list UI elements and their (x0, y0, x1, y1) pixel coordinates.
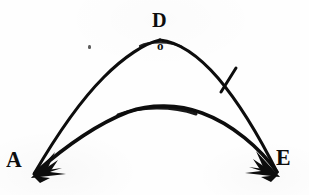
vertex-label-d: D (152, 9, 166, 31)
arrowhead-e-barb (261, 175, 278, 182)
arrowhead-a-barb (33, 176, 50, 183)
vertex-label-a: A (6, 148, 22, 171)
ink-speck-mark (88, 45, 91, 49)
tick-cross-stroke (221, 68, 236, 92)
vertex-label-e: E (276, 146, 291, 169)
tick-cross-mark (221, 68, 236, 92)
apex-point-marker-o: o (157, 39, 164, 52)
geometric-figure: D o A E (0, 0, 309, 195)
